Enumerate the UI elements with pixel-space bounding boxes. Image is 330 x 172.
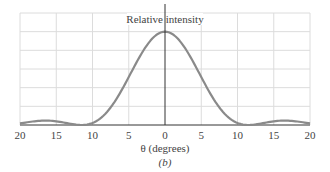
diffraction-intensity-chart: Relative intensity 201510505101520 θ (de… [0,0,330,172]
x-axis-label: θ (degrees) [141,142,190,155]
x-tick-labels: 201510505101520 [15,129,317,141]
x-tick-label: 15 [51,129,63,141]
y-axis-label: Relative intensity [126,13,204,25]
x-tick-label: 10 [232,129,244,141]
x-tick-label: 5 [126,129,132,141]
x-tick-label: 15 [268,129,280,141]
x-tick-label: 5 [199,129,205,141]
x-tick-label: 0 [162,129,168,141]
x-tick-label: 20 [305,129,317,141]
x-tick-label: 20 [15,129,27,141]
x-tick-label: 10 [87,129,99,141]
figure-caption: (b) [159,156,172,169]
